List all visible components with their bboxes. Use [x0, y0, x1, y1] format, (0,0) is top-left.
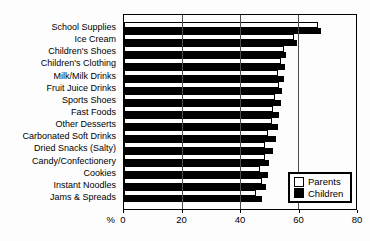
- x-tick-label: 40: [235, 214, 246, 225]
- category-label: Ice Cream: [0, 33, 119, 45]
- legend: Parents Children: [288, 172, 352, 203]
- category-axis-labels: School SuppliesIce CreamChildren's Shoes…: [0, 14, 119, 210]
- bar-chart-figure: School SuppliesIce CreamChildren's Shoes…: [0, 0, 370, 241]
- x-tick-label: 0: [120, 214, 125, 225]
- category-label: Jams & Spreads: [0, 191, 119, 203]
- x-tick-label: 60: [293, 214, 304, 225]
- category-label: Carbonated Soft Drinks: [0, 130, 119, 142]
- children-swatch-icon: [294, 188, 304, 198]
- gridline: [240, 15, 241, 209]
- parents-swatch-icon: [294, 177, 304, 187]
- category-label: Candy/Confectionery: [0, 155, 119, 167]
- gridline: [182, 15, 183, 209]
- x-tick-mark: [357, 210, 358, 213]
- x-tick-mark: [123, 210, 124, 213]
- category-label: Dried Snacks (Salty): [0, 142, 119, 154]
- x-axis: 020406080: [123, 210, 357, 230]
- category-label: Other Desserts: [0, 118, 119, 130]
- x-tick-mark: [240, 210, 241, 213]
- legend-label-parents: Parents: [308, 177, 341, 187]
- x-tick-mark: [299, 210, 300, 213]
- legend-item-parents: Parents: [294, 177, 346, 187]
- category-label: Fast Foods: [0, 106, 119, 118]
- category-label: School Supplies: [0, 21, 119, 33]
- legend-label-children: Children: [308, 189, 343, 199]
- x-tick-mark: [182, 210, 183, 213]
- category-label: Children's Shoes: [0, 45, 119, 57]
- category-label: Instant Noodles: [0, 179, 119, 191]
- x-tick-label: 20: [176, 214, 187, 225]
- legend-item-children: Children: [294, 188, 346, 198]
- category-label: Sports Shoes: [0, 94, 119, 106]
- x-axis-unit-label: %: [95, 214, 115, 225]
- category-label: Children's Clothing: [0, 57, 119, 69]
- children-bar: [124, 196, 262, 202]
- category-label: Fruit Juice Drinks: [0, 82, 119, 94]
- category-label: Milk/Milk Drinks: [0, 70, 119, 82]
- category-label: Cookies: [0, 167, 119, 179]
- x-tick-label: 80: [352, 214, 363, 225]
